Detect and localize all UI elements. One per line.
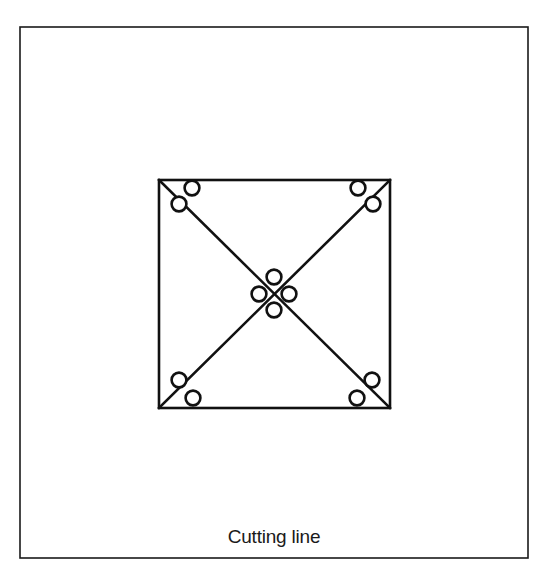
figure-background <box>0 0 547 572</box>
circle-bottom-right-upper <box>365 373 380 388</box>
caption-cutting-line: Cutting line <box>228 526 321 547</box>
figure-page: Cutting line <box>0 0 547 572</box>
circle-top-right-lower <box>366 197 381 212</box>
circle-center-left <box>252 287 267 302</box>
circle-top-left-lower <box>172 197 187 212</box>
circle-center-right <box>282 287 297 302</box>
cutting-line-figure: Cutting line <box>0 0 547 572</box>
circle-center-top <box>267 270 282 285</box>
circle-top-right-upper <box>351 181 366 196</box>
circle-bottom-left-lower <box>186 391 201 406</box>
circle-bottom-left-upper <box>172 373 187 388</box>
circle-bottom-right-lower <box>350 391 365 406</box>
circle-top-left-upper <box>185 181 200 196</box>
circle-center-bottom <box>267 303 282 318</box>
